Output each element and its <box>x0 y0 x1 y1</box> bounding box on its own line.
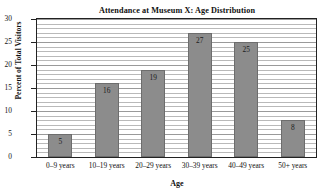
y-tick-label: 10 <box>0 107 12 114</box>
bar: 19 <box>141 70 165 157</box>
bar: 8 <box>281 120 305 157</box>
y-tick-mark <box>31 19 36 20</box>
y-tick-mark <box>31 65 36 66</box>
x-tick-label: 30–39 years <box>177 162 224 170</box>
y-tick-label: 15 <box>0 84 12 91</box>
y-tick-mark <box>31 88 36 89</box>
chart-title: Attendance at Museum X: Age Distribution <box>36 6 318 16</box>
x-tick-label: 0–9 years <box>37 162 84 170</box>
bar-chart-figure: Attendance at Museum X: Age Distribution… <box>0 0 331 194</box>
y-tick-label: 5 <box>0 130 12 137</box>
bar: 5 <box>48 134 72 157</box>
x-tick-label: 40–49 years <box>223 162 270 170</box>
y-tick-label: 30 <box>0 15 12 22</box>
bar-value-label: 5 <box>49 138 71 146</box>
bar: 16 <box>95 83 119 157</box>
y-tick-label: 20 <box>0 61 12 68</box>
y-tick-mark <box>31 42 36 43</box>
y-axis-title: Percent of Total Visitors <box>14 1 23 121</box>
bar: 25 <box>234 42 258 157</box>
bar-value-label: 19 <box>142 74 164 82</box>
gridline <box>37 157 316 158</box>
y-tick-mark <box>31 157 36 158</box>
x-tick-label: 10–19 years <box>84 162 131 170</box>
x-tick-label: 50+ years <box>270 162 317 170</box>
x-tick-label: 20–29 years <box>130 162 177 170</box>
bar: 27 <box>188 33 212 157</box>
plot-area: 5161927258 <box>36 18 317 158</box>
y-tick-mark <box>31 134 36 135</box>
x-axis-title: Age <box>36 179 318 188</box>
y-tick-label: 25 <box>0 38 12 45</box>
bar-value-label: 25 <box>235 46 257 54</box>
y-tick-label: 0 <box>0 153 12 160</box>
bar-value-label: 16 <box>96 87 118 95</box>
bar-series: 5161927258 <box>37 19 316 157</box>
y-tick-mark <box>31 111 36 112</box>
bar-value-label: 27 <box>189 37 211 45</box>
bar-value-label: 8 <box>282 124 304 132</box>
